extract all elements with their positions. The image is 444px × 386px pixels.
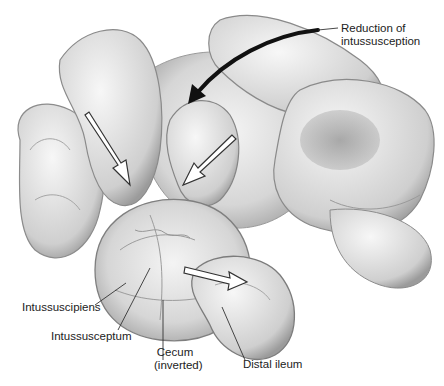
label-line-1: Reduction of xyxy=(341,22,420,35)
distal-ileum-loop xyxy=(192,256,295,359)
label-reduction-of-intussusception: Reduction of intussusception xyxy=(341,22,420,48)
intussusception-illustration xyxy=(0,0,444,386)
label-line-2: intussusception xyxy=(341,35,420,48)
label-distal-ileum: Distal ileum xyxy=(243,358,302,371)
right-lower-loop xyxy=(330,209,431,288)
label-line-2: (inverted) xyxy=(154,359,196,372)
label-intussuscipiens: Intussuscipiens xyxy=(22,301,101,314)
illustration-figure: Reduction of intussusception Intussuscip… xyxy=(0,0,444,386)
label-cecum-inverted: Cecum (inverted) xyxy=(154,346,196,372)
label-intussusceptum: Intussusceptum xyxy=(51,330,132,343)
label-line-1: Cecum xyxy=(154,346,196,359)
